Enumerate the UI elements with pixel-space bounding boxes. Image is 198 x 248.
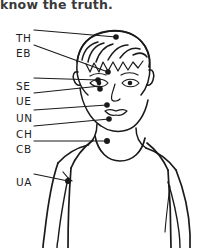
point-dot-ch[interactable] bbox=[106, 116, 112, 122]
label-ue: UE bbox=[16, 95, 32, 107]
point-dot-cb[interactable] bbox=[104, 138, 110, 144]
label-th: TH bbox=[16, 32, 32, 44]
eyebrow-right bbox=[121, 73, 138, 75]
point-dot-ua[interactable] bbox=[65, 178, 71, 184]
point-dot-se[interactable] bbox=[95, 77, 101, 83]
leader-lines bbox=[34, 30, 116, 181]
leader-line-se bbox=[34, 78, 98, 80]
leader-line-ch bbox=[34, 119, 109, 126]
leader-line-un bbox=[34, 105, 107, 110]
leader-line-ue bbox=[34, 86, 100, 93]
point-dot-eb[interactable] bbox=[105, 69, 111, 75]
nose bbox=[111, 84, 120, 101]
tanktop-neckline bbox=[95, 136, 145, 161]
arm-right-crease bbox=[165, 186, 170, 232]
point-dot-ue[interactable] bbox=[97, 86, 103, 92]
arm-left-outer bbox=[43, 163, 58, 248]
label-ch: CH bbox=[16, 128, 32, 140]
eyebrow-left bbox=[90, 74, 106, 76]
mouth bbox=[105, 109, 127, 115]
tanktop-strap-right bbox=[147, 143, 168, 170]
label-cb: CB bbox=[16, 143, 32, 155]
point-dot-th[interactable] bbox=[113, 34, 119, 40]
tapping-points-diagram: know the truth. bbox=[0, 0, 198, 248]
hair-strand-6 bbox=[133, 53, 147, 57]
pupil-right bbox=[128, 81, 133, 86]
point-dot-un[interactable] bbox=[104, 102, 110, 108]
label-eb: EB bbox=[16, 47, 31, 59]
hair-strand-3 bbox=[96, 44, 113, 62]
label-un: UN bbox=[16, 112, 33, 124]
hair-fringe-zigzag bbox=[86, 61, 143, 72]
label-ua: UA bbox=[16, 176, 32, 188]
leader-line-ua bbox=[34, 174, 68, 181]
arm-left-inner bbox=[57, 178, 68, 248]
label-se: SE bbox=[16, 80, 31, 92]
arm-right-outer bbox=[176, 170, 190, 248]
